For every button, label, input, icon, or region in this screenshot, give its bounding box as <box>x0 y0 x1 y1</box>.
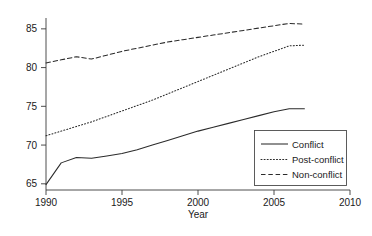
x-tick-label: 2005 <box>263 197 286 208</box>
x-axis-title: Year <box>188 209 209 220</box>
y-tick-label: 80 <box>26 62 38 73</box>
y-tick-group: 6570758085 <box>26 23 46 189</box>
series-line-non-conflict <box>46 23 304 63</box>
series-line-post-conflict <box>46 45 304 136</box>
x-tick-label: 1995 <box>111 197 134 208</box>
chart-legend: ConflictPost-conflictNon-conflict <box>255 131 347 186</box>
legend-label-conflict: Conflict <box>292 139 324 150</box>
line-chart: 6570758085 19901995200020052010 Year Con… <box>0 0 372 236</box>
x-tick-label: 1990 <box>35 197 58 208</box>
x-tick-group: 19901995200020052010 <box>35 190 362 208</box>
x-tick-label: 2010 <box>339 197 362 208</box>
y-tick-label: 65 <box>26 178 38 189</box>
y-axis: 6570758085 <box>26 18 46 190</box>
legend-label-post-conflict: Post-conflict <box>292 154 344 165</box>
legend-label-non-conflict: Non-conflict <box>292 169 343 180</box>
x-tick-label: 2000 <box>187 197 210 208</box>
y-tick-label: 70 <box>26 140 38 151</box>
x-axis: 19901995200020052010 <box>35 190 362 208</box>
y-tick-label: 85 <box>26 23 38 34</box>
chart-canvas: 6570758085 19901995200020052010 Year Con… <box>0 0 372 236</box>
y-tick-label: 75 <box>26 101 38 112</box>
